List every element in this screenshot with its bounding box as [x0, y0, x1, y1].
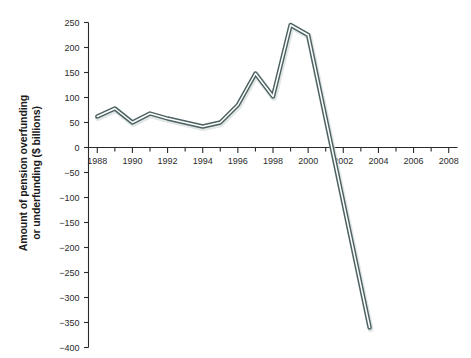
y-axis-tick-label: −100	[59, 193, 79, 203]
y-axis-tick-label: −250	[59, 268, 79, 278]
y-axis-tick-label: −200	[59, 243, 79, 253]
y-axis-tick-label: 200	[64, 43, 79, 53]
y-axis-tick-label: 0	[74, 143, 79, 153]
x-axis-tick-label: 1990	[122, 156, 142, 166]
x-axis-tick-label: 2004	[368, 156, 388, 166]
y-axis-tick-label: −50	[64, 168, 79, 178]
x-axis-tick-label: 1994	[193, 156, 213, 166]
y-axis-tick-label: −350	[59, 318, 79, 328]
y-axis-tick-label: −300	[59, 293, 79, 303]
chart-figure: Amount of pension overfunding or underfu…	[0, 0, 471, 358]
y-axis-tick-label: 50	[69, 118, 79, 128]
x-axis-tick-label: 1998	[263, 156, 283, 166]
data-line-inner	[97, 25, 369, 328]
data-line-outer	[97, 25, 369, 328]
y-axis-tick-label: 100	[64, 93, 79, 103]
x-axis-tick-label: 2008	[439, 156, 459, 166]
x-axis-tick-label: 2006	[404, 156, 424, 166]
x-axis-tick-label: 1988	[87, 156, 107, 166]
y-axis-tick-label: −150	[59, 218, 79, 228]
x-axis-tick-label: 1992	[158, 156, 178, 166]
data-series-group	[97, 25, 370, 329]
y-axis-tick-label: −400	[59, 343, 79, 353]
y-axis-tick-label: 150	[64, 68, 79, 78]
y-axis-tick-label: 250	[64, 18, 79, 28]
x-axis: 1988199019921994199619982000200220042006…	[87, 148, 458, 167]
x-axis-tick-label: 1996	[228, 156, 248, 166]
x-axis-tick-label: 2000	[298, 156, 318, 166]
y-axis: 250200150100500−50−100−150−200−250−300−3…	[59, 18, 88, 353]
data-line-shadow	[98, 26, 370, 329]
line-chart-plot: 250200150100500−50−100−150−200−250−300−3…	[0, 0, 471, 358]
